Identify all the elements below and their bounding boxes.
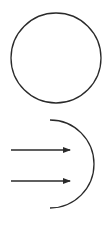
circle-shape: [11, 13, 101, 103]
diagram-canvas: [0, 0, 108, 231]
curved-arc: [50, 120, 94, 208]
